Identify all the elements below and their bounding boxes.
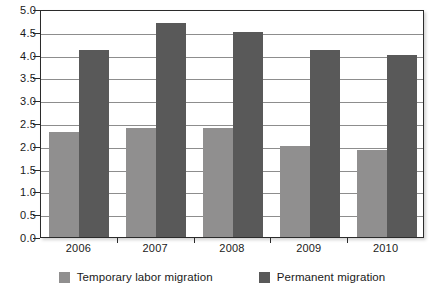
y-tick-mark bbox=[33, 10, 40, 11]
x-tick-label: 2009 bbox=[296, 242, 321, 254]
bars-layer bbox=[41, 11, 423, 237]
y-tick-mark bbox=[33, 56, 40, 57]
bar-2007-temporary bbox=[126, 128, 156, 237]
x-tick-label: 2008 bbox=[219, 242, 244, 254]
plot-area bbox=[40, 10, 424, 238]
y-tick-mark bbox=[33, 192, 40, 193]
y-tick-mark bbox=[33, 170, 40, 171]
legend-item-temporary-labor-migration: Temporary labor migration bbox=[59, 271, 213, 283]
x-tick-label: 2007 bbox=[143, 242, 168, 254]
bar-2010-temporary bbox=[357, 150, 387, 237]
y-tick-mark bbox=[33, 147, 40, 148]
y-tick-mark bbox=[33, 238, 40, 239]
chart-legend: Temporary labor migrationPermanent migra… bbox=[0, 266, 444, 288]
legend-item-permanent-migration: Permanent migration bbox=[259, 271, 386, 283]
bar-2008-temporary bbox=[203, 128, 233, 237]
bar-2010-permanent bbox=[387, 55, 417, 237]
bar-2006-permanent bbox=[79, 50, 109, 237]
y-tick-mark bbox=[33, 78, 40, 79]
legend-swatch-icon bbox=[259, 272, 270, 283]
bar-chart: 0.00.51.01.52.02.53.03.54.04.55.0 200620… bbox=[0, 0, 444, 293]
legend-swatch-icon bbox=[59, 272, 70, 283]
y-tick-mark bbox=[33, 33, 40, 34]
bar-2006-temporary bbox=[49, 132, 79, 237]
y-tick-mark bbox=[33, 101, 40, 102]
bar-2007-permanent bbox=[156, 23, 186, 237]
legend-label: Temporary labor migration bbox=[77, 271, 213, 283]
x-tick-label: 2010 bbox=[373, 242, 398, 254]
x-tick-label: 2006 bbox=[66, 242, 91, 254]
bar-2009-permanent bbox=[310, 50, 340, 237]
y-tick-mark bbox=[33, 215, 40, 216]
bar-2008-permanent bbox=[233, 32, 263, 237]
y-axis-tick-marks bbox=[33, 10, 40, 238]
bar-2009-temporary bbox=[280, 146, 310, 237]
x-axis-tick-labels: 20062007200820092010 bbox=[40, 242, 424, 260]
legend-label: Permanent migration bbox=[277, 271, 386, 283]
y-tick-mark bbox=[33, 124, 40, 125]
y-axis-tick-labels: 0.00.51.01.52.02.53.03.54.04.55.0 bbox=[0, 10, 36, 238]
